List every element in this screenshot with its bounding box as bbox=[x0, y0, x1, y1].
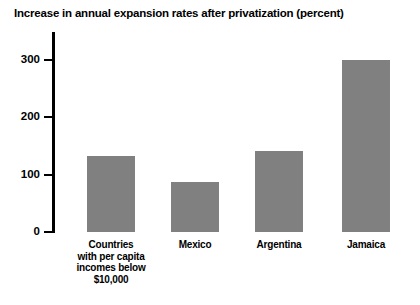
category-label-line: Jamaica bbox=[314, 239, 418, 251]
x-axis-category-label: Jamaica bbox=[314, 239, 418, 251]
category-label-line: incomes below bbox=[59, 262, 163, 274]
y-axis-tick-label: 300 bbox=[0, 54, 40, 65]
category-label-line: $10,000 bbox=[59, 274, 163, 286]
bar bbox=[87, 156, 135, 232]
category-label-line: with per capita bbox=[59, 251, 163, 263]
y-axis-tick-label: 0 bbox=[0, 226, 40, 237]
bar bbox=[171, 182, 219, 232]
y-axis-tick-mark bbox=[44, 231, 52, 233]
y-axis-tick-label: 200 bbox=[0, 111, 40, 122]
bar-chart: Increase in annual expansion rates after… bbox=[0, 0, 420, 305]
bar bbox=[342, 60, 390, 232]
plot-area: 0100200300 Countrieswith per capitaincom… bbox=[0, 0, 420, 305]
y-axis-tick-label: 100 bbox=[0, 169, 40, 180]
bar bbox=[255, 151, 303, 232]
y-axis-tick-mark bbox=[44, 59, 52, 61]
y-axis-tick-mark bbox=[44, 116, 52, 118]
y-axis-line bbox=[52, 32, 55, 233]
y-axis-tick-mark bbox=[44, 174, 52, 176]
